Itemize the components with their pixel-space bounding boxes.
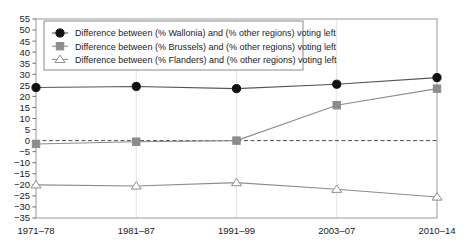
x-axis-ticks: 1971–781981–871991–992003–072010–14 [18, 225, 456, 236]
y-tick-label: 50 [19, 24, 30, 35]
x-tick-label: 2003–07 [318, 225, 355, 236]
data-point [32, 83, 40, 91]
y-tick-label: 10 [19, 113, 30, 124]
data-point [133, 138, 140, 145]
legend-label: Difference between (% Brussels) and (% o… [75, 42, 336, 52]
data-point [32, 140, 39, 147]
data-point [232, 85, 240, 93]
legend-label: Difference between (% Flanders) and (% o… [75, 55, 337, 65]
data-point [333, 80, 341, 88]
data-point [433, 85, 440, 92]
x-tick-label: 1991–99 [218, 225, 255, 236]
y-tick-label: −10 [14, 157, 30, 168]
x-tick-label: 1971–78 [18, 225, 55, 236]
legend-marker [56, 43, 63, 50]
line-chart: 5550454035302520151050−5−10−15−20−25−30−… [0, 0, 471, 248]
y-tick-label: −5 [19, 146, 30, 157]
data-point [132, 82, 140, 90]
y-tick-label: −20 [14, 179, 30, 190]
y-tick-label: 45 [19, 36, 30, 47]
legend-label: Difference between (% Wallonia) and (% o… [75, 28, 336, 38]
chart-legend: Difference between (% Wallonia) and (% o… [44, 21, 337, 70]
data-series-layer [31, 73, 442, 200]
y-tick-label: 55 [19, 13, 30, 24]
y-tick-label: −15 [14, 168, 30, 179]
y-tick-label: 25 [19, 80, 30, 91]
y-axis-ticks: 5550454035302520151050−5−10−15−20−25−30−… [14, 13, 36, 223]
x-tick-label: 1981–87 [118, 225, 155, 236]
y-tick-label: −25 [14, 190, 30, 201]
y-tick-label: −35 [14, 212, 30, 223]
y-tick-label: 0 [25, 135, 30, 146]
y-tick-label: 5 [25, 124, 30, 135]
y-tick-label: 20 [19, 91, 30, 102]
chart-container: 5550454035302520151050−5−10−15−20−25−30−… [0, 0, 471, 248]
y-tick-label: 30 [19, 69, 30, 80]
y-tick-label: 35 [19, 58, 30, 69]
y-tick-label: 15 [19, 102, 30, 113]
x-tick-label: 2010–14 [419, 225, 456, 236]
data-point [31, 181, 41, 188]
y-tick-label: −30 [14, 201, 30, 212]
y-tick-label: 40 [19, 47, 30, 58]
data-point [333, 102, 340, 109]
data-point [233, 137, 240, 144]
legend-marker [56, 29, 64, 37]
data-point [433, 73, 441, 81]
data-point [232, 178, 242, 185]
